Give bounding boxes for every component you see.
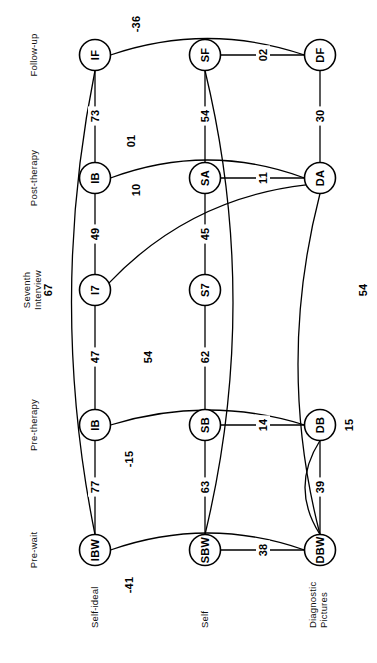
node-sf[interactable]: SF xyxy=(190,40,221,71)
edge-label-ib2-da: 01 xyxy=(124,131,138,150)
diagram-canvas: IBWIBI7IBIFSBWSBS7SASFDBWDBDADF 77474973… xyxy=(0,0,377,663)
svg-text:54: 54 xyxy=(199,109,211,122)
edge-label-sbw-dbw: 38 xyxy=(256,540,270,559)
svg-text:63: 63 xyxy=(199,481,211,494)
node-label: SA xyxy=(199,170,211,186)
node-db[interactable]: DB xyxy=(305,410,336,441)
node-ib2[interactable]: IB xyxy=(80,163,111,194)
svg-text:Interview: Interview xyxy=(32,270,43,310)
node-label: IB xyxy=(89,419,101,431)
svg-text:Self-ideal: Self-ideal xyxy=(89,586,100,628)
svg-text:49: 49 xyxy=(89,228,101,241)
svg-text:Pictures: Pictures xyxy=(318,592,329,628)
svg-text:15: 15 xyxy=(343,419,355,432)
svg-text:Self: Self xyxy=(199,611,210,628)
svg-text:54: 54 xyxy=(357,283,369,296)
node-sa[interactable]: SA xyxy=(190,163,221,194)
row-label-self: Self xyxy=(199,611,210,628)
edge-label-ib2-if: 73 xyxy=(88,106,102,125)
svg-text:77: 77 xyxy=(89,481,101,494)
node-sb[interactable]: SB xyxy=(190,410,221,441)
svg-text:38: 38 xyxy=(257,544,269,557)
node-dbw[interactable]: DBW xyxy=(305,535,336,566)
svg-text:54: 54 xyxy=(142,350,154,363)
svg-text:45: 45 xyxy=(199,228,211,241)
edge-label-if-df: -36 xyxy=(129,11,143,37)
edge-label-ibw-dbw: -41 xyxy=(122,572,136,598)
node-label: SF xyxy=(199,48,211,63)
node-label: S7 xyxy=(199,283,211,297)
node-ib1[interactable]: IB xyxy=(80,410,111,441)
svg-text:Seventh: Seventh xyxy=(21,272,32,308)
svg-text:Pre-wait: Pre-wait xyxy=(28,532,39,569)
svg-text:Post-therapy: Post-therapy xyxy=(28,150,39,206)
edge-label-ib1-db: -15 xyxy=(122,446,136,472)
node-label: I7 xyxy=(89,285,101,295)
svg-text:01: 01 xyxy=(125,135,137,148)
svg-text:73: 73 xyxy=(89,110,101,123)
edge-label-da-dbw: 54 xyxy=(356,280,370,299)
column-label-pre-wait: Pre-wait xyxy=(28,532,39,569)
node-df[interactable]: DF xyxy=(305,40,336,71)
edge-label-i7-ib2: 49 xyxy=(88,224,102,243)
svg-text:02: 02 xyxy=(257,49,269,62)
node-sbw[interactable]: SBW xyxy=(190,535,221,566)
svg-text:Pre-therapy: Pre-therapy xyxy=(28,399,39,451)
node-label: SBW xyxy=(199,536,211,563)
node-label: IF xyxy=(89,50,101,60)
row-label-self-ideal: Self-ideal xyxy=(89,586,100,628)
svg-text:30: 30 xyxy=(314,110,326,123)
svg-text:Follow-up: Follow-up xyxy=(28,34,39,77)
axis-labels-layer: Pre-waitPre-therapySeventhInterviewPost-… xyxy=(21,34,329,628)
node-s7[interactable]: S7 xyxy=(190,275,221,306)
edge-label-s7-sa: 45 xyxy=(198,224,212,243)
edge-label-i7-da: 10 xyxy=(129,180,143,199)
correlation-path-diagram: IBWIBI7IBIFSBWSBS7SASFDBWDBDADF 77474973… xyxy=(0,0,377,663)
edge-label-ibw-ib1: 77 xyxy=(88,477,102,496)
row-label-diagnostic-pictures: DiagnosticPictures xyxy=(307,582,329,628)
svg-text:11: 11 xyxy=(257,172,269,184)
node-i7[interactable]: I7 xyxy=(80,275,111,306)
edge-label-dbw-db: 39 xyxy=(313,477,327,496)
svg-text:14: 14 xyxy=(257,418,269,431)
column-label-follow-up: Follow-up xyxy=(28,34,39,77)
edge-label-sbw-sb: 63 xyxy=(198,477,212,496)
edge-label-sf-sbw: 54 xyxy=(141,347,155,366)
edge-label-sa-da: 11 xyxy=(256,168,270,187)
edge-label-db-dbw: 15 xyxy=(342,415,356,434)
edge-label-sb-db: 14 xyxy=(256,415,270,434)
node-label: IB xyxy=(89,172,101,184)
node-label: DF xyxy=(314,47,326,62)
node-label: IBW xyxy=(89,539,101,562)
column-label-pre-therapy: Pre-therapy xyxy=(28,399,39,451)
svg-text:39: 39 xyxy=(314,481,326,494)
svg-text:62: 62 xyxy=(199,351,211,364)
edge-label-ibw-if: 67 xyxy=(41,280,55,299)
svg-text:67: 67 xyxy=(42,284,54,297)
svg-text:-41: -41 xyxy=(123,577,135,594)
svg-text:-36: -36 xyxy=(130,16,142,33)
edge-label-sb-s7: 62 xyxy=(198,347,212,366)
svg-text:Diagnostic: Diagnostic xyxy=(307,582,318,628)
node-da[interactable]: DA xyxy=(305,163,336,194)
svg-text:-15: -15 xyxy=(123,451,135,468)
node-label: SB xyxy=(199,417,211,433)
svg-text:47: 47 xyxy=(89,351,101,364)
edge-label-sa-sf: 54 xyxy=(198,106,212,125)
node-if[interactable]: IF xyxy=(80,40,111,71)
node-ibw[interactable]: IBW xyxy=(80,535,111,566)
node-label: DA xyxy=(314,170,326,187)
edge-label-da-df: 30 xyxy=(313,106,327,125)
svg-text:10: 10 xyxy=(130,184,142,197)
edge-label-ib1-i7: 47 xyxy=(88,347,102,366)
column-label-seventh-interview: SeventhInterview xyxy=(21,270,43,310)
node-label: DB xyxy=(314,417,326,434)
column-label-post-therapy: Post-therapy xyxy=(28,150,39,206)
node-label: DBW xyxy=(314,536,326,563)
edge-label-sf-df: 02 xyxy=(256,45,270,64)
